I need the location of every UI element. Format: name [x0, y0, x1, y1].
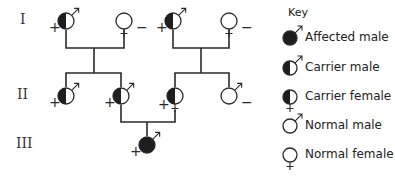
generation-label-ii: II: [17, 86, 28, 102]
plus-sign: +: [49, 94, 61, 110]
key-label-normal-male: Normal male: [305, 118, 382, 132]
individual-ii-2: +: [104, 83, 134, 110]
female-sign-icon: [121, 29, 128, 37]
female-sign-icon: [226, 29, 233, 37]
male-sign-icon: [127, 83, 134, 90]
individual-i-4: −: [221, 13, 253, 37]
generation-label-i: I: [20, 11, 26, 27]
key-symbol-carrier-male-icon: [283, 56, 302, 75]
male-sign-icon: [179, 8, 186, 15]
individual-ii-3: +: [158, 88, 183, 112]
plus-sign: +: [156, 19, 168, 35]
male-sign-icon: [153, 132, 160, 139]
key-label-carrier-female: Carrier female: [305, 89, 391, 103]
plus-sign: +: [130, 143, 142, 159]
plus-sign: +: [49, 19, 61, 35]
sibship-line-left: [66, 73, 121, 87]
female-sign-icon: [172, 104, 179, 112]
male-sign-icon: [72, 8, 79, 15]
mating-line-right: [173, 30, 229, 48]
individual-i-2: −: [116, 13, 148, 37]
sibship-line-right: [175, 73, 229, 87]
key-symbol-affected-male-icon: [283, 26, 302, 45]
individuals: +−+−+++−+: [49, 8, 253, 159]
key-label-carrier-male: Carrier male: [305, 60, 380, 74]
key-label-affected-male: Affected male: [305, 30, 389, 44]
pedigree-lines: [66, 30, 229, 136]
individual-ii-1: +: [49, 83, 79, 110]
key-symbol-carrier-female-icon: [283, 90, 297, 112]
key-title: Key: [288, 6, 308, 19]
minus-sign: −: [136, 19, 148, 35]
male-sign-icon: [72, 83, 79, 90]
minus-sign: −: [241, 19, 253, 35]
key-symbol-normal-female-icon: [283, 148, 297, 170]
key-symbol-normal-male-icon: [283, 114, 302, 133]
minus-sign: −: [241, 94, 253, 110]
individual-ii-4: −: [221, 83, 253, 110]
key-label-normal-female: Normal female: [305, 147, 394, 161]
male-sign-icon: [295, 56, 302, 63]
male-sign-icon: [295, 114, 302, 121]
female-sign-icon: [287, 104, 294, 112]
male-sign-icon: [235, 83, 242, 90]
plus-sign: +: [158, 96, 170, 112]
individual-iii-1: +: [130, 132, 160, 159]
individual-i-3: +: [156, 8, 186, 35]
mating-line-left: [66, 30, 124, 48]
male-sign-icon: [295, 26, 302, 33]
generation-label-iii: III: [16, 135, 33, 151]
plus-sign: +: [104, 94, 116, 110]
key-symbols: [283, 26, 302, 170]
individual-i-1: +: [49, 8, 79, 35]
female-sign-icon: [287, 162, 294, 170]
